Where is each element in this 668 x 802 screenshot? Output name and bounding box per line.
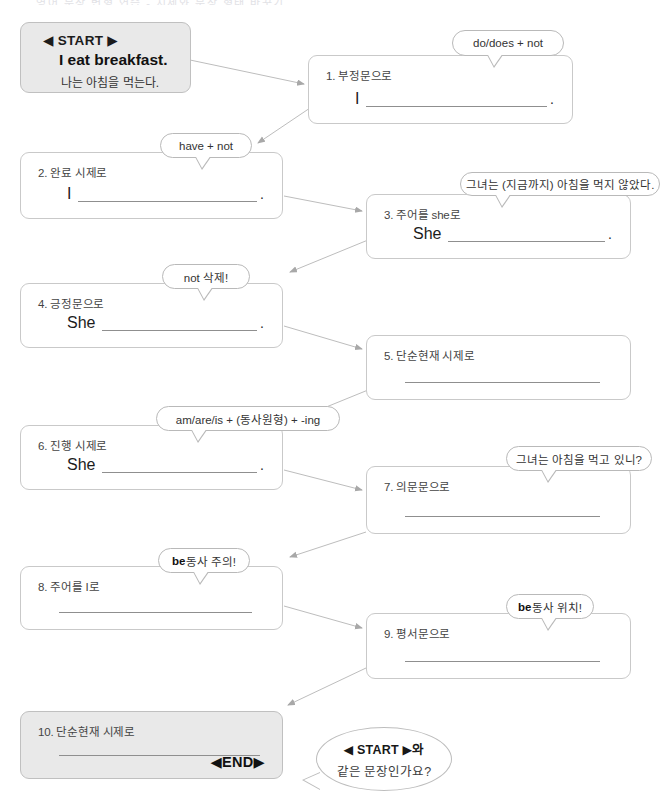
hint-bubble-text-4: not 삭제!	[184, 269, 228, 285]
hint-bubble-1: do/does + not	[452, 30, 564, 56]
answer-row-5[interactable]	[405, 365, 600, 383]
end-question-bubble: ◀ START ▶와 같은 문장인가요?	[316, 727, 452, 791]
end-question-line2: 같은 문장인가요?	[337, 761, 431, 780]
bubble-tail-fill-8	[193, 570, 209, 583]
bubble-tail-fill-9	[541, 616, 557, 629]
arrow-4-to-5	[284, 326, 362, 349]
blank-line-3[interactable]	[448, 224, 605, 242]
blank-line-1[interactable]	[366, 89, 547, 107]
hint-bubble-text-1: do/does + not	[473, 37, 543, 49]
bubble-tail-fill-4	[197, 286, 213, 299]
arrow-8-to-9	[284, 606, 362, 628]
step-label-3: 3. 주어를 she로	[384, 206, 460, 222]
step-label-2: 2. 완료 시제로	[38, 164, 107, 180]
step-box-5[interactable]: 5. 단순현재 시제로	[366, 335, 631, 400]
step-box-2[interactable]: 2. 완료 시제로 I .	[20, 152, 283, 219]
arrow-start-to-1	[190, 60, 304, 84]
step-label-8: 8. 주어를 I로	[38, 578, 99, 594]
subject-prefix-6: She	[59, 457, 102, 473]
hint-bubble-text-2: have + not	[179, 140, 233, 152]
period-3: .	[605, 227, 612, 241]
bubble-tail-fill-7	[541, 468, 557, 481]
blank-line-7[interactable]	[405, 499, 600, 517]
hint-bubble-3: 그녀는 (지금까지) 아침을 먹지 않았다.	[460, 172, 660, 196]
end-tag: ◀END▶	[211, 754, 265, 770]
blank-line-8[interactable]	[59, 595, 252, 613]
blank-line-4[interactable]	[102, 313, 257, 331]
step-box-8[interactable]: 8. 주어를 I로	[20, 566, 283, 630]
blank-line-2[interactable]	[78, 184, 257, 202]
bubble-tail-fill-1	[487, 53, 503, 66]
answer-row-3[interactable]: She .	[405, 224, 612, 242]
hint-bubble-2: have + not	[160, 133, 252, 158]
bubble-tail-fill-2	[195, 155, 211, 168]
step-label-6: 6. 진행 시제로	[38, 437, 107, 453]
subject-prefix-4: She	[59, 315, 102, 331]
arrow-7-to-8	[290, 532, 366, 557]
hint-bubble-7: 그녀는 아침을 먹고 있니?	[506, 446, 652, 471]
start-box: ◀ START ▶ I eat breakfast. 나는 아침을 먹는다.	[20, 22, 191, 93]
arrow-1-to-2	[258, 108, 310, 143]
answer-row-6[interactable]: She .	[59, 455, 264, 473]
step-box-10[interactable]: 10. 단순현재 시제로 ◀END▶	[20, 711, 283, 779]
answer-row-9[interactable]	[405, 644, 600, 662]
hint-bubble-6: am/are/is + (동사원형) + -ing	[156, 406, 340, 431]
step-label-10: 10. 단순현재 시제로	[38, 723, 135, 739]
hint-bubble-4: not 삭제!	[162, 264, 250, 289]
step-box-4[interactable]: 4. 긍정문으로 She .	[20, 283, 283, 348]
arrow-3-to-4	[290, 240, 368, 272]
end-bubble-tail-fill	[304, 773, 320, 789]
arrow-6-to-7	[284, 470, 362, 490]
period-4: .	[257, 316, 264, 330]
step-label-9: 9. 평서문으로	[384, 625, 450, 641]
worksheet-canvas: 영어 문장 변형 연습 - 시제와 문장 형태 바꾸기 ◀ START ▶ I …	[0, 0, 668, 802]
period-1: .	[547, 92, 554, 106]
period-6: .	[257, 458, 264, 472]
blank-line-9[interactable]	[405, 644, 600, 662]
step-box-6[interactable]: 6. 진행 시제로 She .	[20, 425, 283, 490]
blank-line-5[interactable]	[405, 365, 600, 383]
hint-bubble-9: be동사 위치!	[506, 594, 594, 619]
hint-bubble-text-6: am/are/is + (동사원형) + -ing	[176, 411, 320, 427]
step-label-7: 7. 의문문으로	[384, 478, 450, 494]
hint-bubble-text-9-post: 동사 위치!	[532, 599, 582, 615]
answer-row-4[interactable]: She .	[59, 313, 264, 331]
step-box-9[interactable]: 9. 평서문으로	[366, 613, 631, 679]
answer-row-7[interactable]	[405, 499, 600, 517]
blank-line-6[interactable]	[102, 455, 257, 473]
hint-bubble-text-3: 그녀는 (지금까지) 아침을 먹지 않았다.	[466, 176, 655, 192]
hint-bubble-8: be동사 주의!	[158, 548, 250, 573]
bubble-tail-fill-6	[191, 428, 207, 441]
bubble-tail-fill-3	[495, 193, 511, 206]
start-tag: ◀ START ▶	[43, 32, 118, 48]
start-korean-sentence: 나는 아침을 먹는다.	[61, 73, 159, 90]
header-text-fragment: 영어 문장 변형 연습 - 시제와 문장 형태 바꾸기	[36, 0, 285, 5]
answer-row-8[interactable]	[59, 595, 252, 613]
hint-bubble-text-8-post: 동사 주의!	[186, 553, 236, 569]
step-box-1[interactable]: 1. 부정문으로 I .	[308, 55, 573, 124]
step-label-5: 5. 단순현재 시제로	[384, 347, 475, 363]
period-2: .	[257, 187, 264, 201]
answer-row-1[interactable]: I .	[347, 89, 554, 107]
step-label-1: 1. 부정문으로	[326, 67, 392, 83]
hint-bubble-text-8-pre: be	[172, 555, 185, 567]
arrow-9-to-10	[288, 668, 366, 705]
hint-bubble-text-7: 그녀는 아침을 먹고 있니?	[516, 451, 642, 467]
subject-prefix-2: I	[59, 186, 78, 202]
answer-row-2[interactable]: I .	[59, 184, 264, 202]
step-box-7[interactable]: 7. 의문문으로	[366, 466, 631, 534]
hint-bubble-text-9-pre: be	[518, 601, 531, 613]
subject-prefix-3: She	[405, 226, 448, 242]
subject-prefix-1: I	[347, 91, 366, 107]
step-label-4: 4. 긍정문으로	[38, 295, 104, 311]
end-question-line1: ◀ START ▶와	[344, 739, 425, 758]
arrow-2-to-3	[284, 196, 362, 211]
start-english-sentence: I eat breakfast.	[59, 51, 168, 69]
